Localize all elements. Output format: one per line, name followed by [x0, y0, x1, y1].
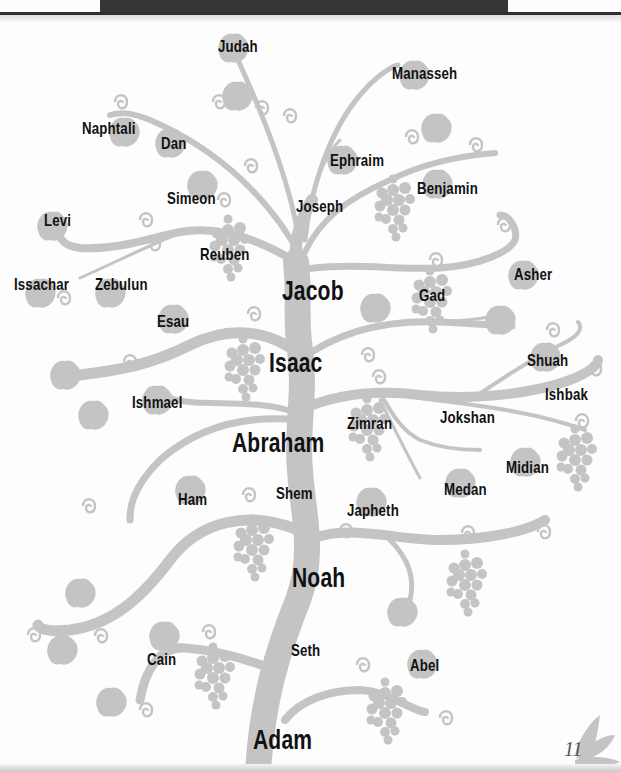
name-isaac: Isaac [269, 350, 322, 377]
name-jacob: Jacob [282, 278, 344, 305]
name-midian: Midian [506, 459, 549, 476]
name-jokshan: Jokshan [440, 409, 495, 426]
name-seth: Seth [291, 642, 320, 659]
name-asher: Asher [514, 266, 552, 283]
name-simeon: Simeon [167, 190, 216, 207]
name-ephraim: Ephraim [330, 152, 384, 169]
page-number: 11 [564, 738, 583, 761]
name-issachar: Issachar [14, 276, 69, 293]
name-japheth: Japheth [347, 502, 399, 519]
name-benjamin: Benjamin [417, 180, 478, 197]
name-manasseh: Manasseh [392, 65, 457, 82]
name-judah: Judah [218, 38, 258, 55]
name-cain: Cain [147, 651, 176, 668]
name-adam: Adam [253, 727, 312, 754]
name-levi: Levi [44, 212, 71, 229]
name-joseph: Joseph [296, 198, 343, 215]
name-esau: Esau [157, 313, 189, 330]
name-shem: Shem [276, 485, 313, 502]
name-reuben: Reuben [200, 246, 250, 263]
name-ishbak: Ishbak [545, 386, 588, 403]
name-shuah: Shuah [527, 352, 568, 369]
name-zimran: Zimran [347, 415, 392, 432]
name-gad: Gad [419, 287, 445, 304]
name-abel: Abel [410, 657, 439, 674]
name-zebulun: Zebulun [95, 276, 148, 293]
name-medan: Medan [444, 481, 487, 498]
name-ishmael: Ishmael [132, 394, 182, 411]
page-bottom-edge [0, 764, 621, 772]
name-noah: Noah [292, 565, 345, 592]
name-abraham: Abraham [232, 430, 324, 457]
name-dan: Dan [161, 135, 187, 152]
name-ham: Ham [178, 491, 207, 508]
name-naphtali: Naphtali [82, 120, 136, 137]
